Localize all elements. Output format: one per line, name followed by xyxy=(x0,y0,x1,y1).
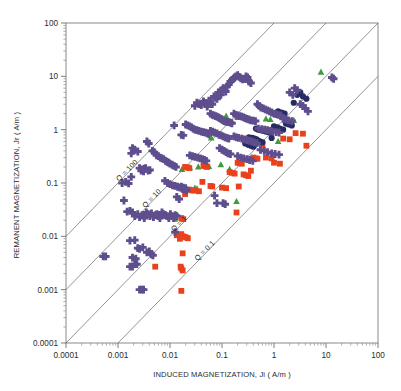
x-tick-label: 1 xyxy=(272,351,277,360)
data-point-circle xyxy=(269,135,275,141)
data-point-square xyxy=(245,173,251,179)
data-point-cross xyxy=(126,237,134,245)
data-point-square xyxy=(232,171,238,177)
data-point-square xyxy=(186,165,192,171)
q-line-label: Q = 0.1 xyxy=(193,239,217,263)
data-point-square xyxy=(271,160,277,166)
y-tick-label: 10 xyxy=(49,72,59,81)
x-tick-label: 10 xyxy=(321,351,331,360)
x-tick-label: 100 xyxy=(371,351,385,360)
data-point-square xyxy=(180,250,186,256)
data-point-triangle xyxy=(318,69,325,75)
q-reference-lines xyxy=(66,23,378,343)
y-tick-label: 0.01 xyxy=(42,232,58,241)
scatter-plot-svg: 0.00010.0010.010.11101000.00010.0010.010… xyxy=(0,0,401,391)
data-point-square xyxy=(204,164,210,170)
data-point-square xyxy=(209,184,215,190)
data-point-square xyxy=(248,168,254,174)
series-purple-crosses xyxy=(99,71,337,293)
y-tick-label: 100 xyxy=(44,19,58,28)
y-tick-label: 1 xyxy=(53,126,58,135)
q-reference-line xyxy=(66,23,274,236)
y-tick-label: 0.001 xyxy=(38,286,59,295)
x-axis-title: INDUCED MAGNETIZATION, Ji ( A/m ) xyxy=(153,370,291,379)
data-point-square xyxy=(196,188,202,194)
data-point-triangle xyxy=(218,161,225,167)
x-tick-label: 0.0001 xyxy=(53,351,78,360)
data-point-cross xyxy=(211,192,219,200)
y-tick-label: 0.0001 xyxy=(33,339,58,348)
data-point-square xyxy=(304,143,310,149)
data-point-square xyxy=(185,235,191,241)
y-axis-title: REMANENT MAGNETIZATION, Jr ( A/m ) xyxy=(12,111,21,258)
data-point-square xyxy=(277,161,283,167)
data-point-square xyxy=(178,264,184,270)
x-tick-label: 0.01 xyxy=(162,351,178,360)
data-points xyxy=(99,69,337,294)
data-point-square xyxy=(280,136,286,142)
data-point-square xyxy=(287,136,293,142)
x-tick-label: 0.001 xyxy=(108,351,129,360)
data-point-square xyxy=(200,179,206,185)
data-point-square xyxy=(223,185,229,191)
data-point-square xyxy=(152,264,158,270)
data-point-triangle xyxy=(233,198,240,204)
data-point-square xyxy=(234,210,240,216)
chart-figure: 0.00010.0010.010.11101000.00010.0010.010… xyxy=(0,0,401,391)
data-point-square xyxy=(178,288,184,294)
data-point-square xyxy=(300,131,306,137)
x-tick-label: 0.1 xyxy=(216,351,228,360)
data-point-cross xyxy=(120,197,128,205)
q-line-label: Q = 10 xyxy=(140,187,163,210)
data-point-circle xyxy=(291,100,297,106)
data-point-square xyxy=(236,184,242,190)
data-point-circle xyxy=(303,96,309,102)
q-reference-line xyxy=(66,23,378,343)
data-point-square xyxy=(293,130,299,136)
y-tick-label: 0.1 xyxy=(47,179,59,188)
